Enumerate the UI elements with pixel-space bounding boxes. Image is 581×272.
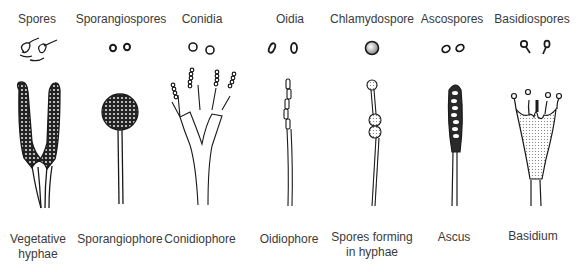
structure-label-sporangiophore: Sporangiophore	[77, 232, 162, 247]
oidia-icon	[268, 42, 297, 53]
structure-label-oidiophore: Oidiophore	[260, 232, 319, 247]
ascus-illustration	[448, 85, 462, 206]
conidiophore-illustration	[171, 68, 236, 205]
spore-icons	[20, 38, 550, 61]
chlamydospores-in-hyphae-illustration	[367, 80, 381, 206]
structure-label-line: in hyphae	[346, 245, 398, 259]
structure-label-vegetative-hyphae: Vegetative hyphae	[10, 232, 66, 262]
sporangiophore-illustration	[102, 94, 138, 204]
oidiophore-illustration	[284, 79, 292, 206]
chlamydospore-icon	[366, 42, 379, 55]
vegetative-hyphae-illustration	[18, 82, 60, 208]
structure-label-spores-forming-in-hyphae: Spores forming in hyphae	[331, 230, 412, 260]
structure-label-line: Spores forming	[331, 230, 412, 244]
motile-spores-icon	[20, 38, 57, 61]
ascospores-icon	[441, 43, 465, 54]
structure-label-basidium: Basidium	[508, 229, 557, 244]
basidium-illustration	[512, 90, 562, 207]
structure-label-line: hyphae	[18, 247, 57, 261]
structure-label-line: Vegetative	[10, 232, 66, 246]
basidiospores-icon	[521, 41, 550, 54]
structure-label-ascus: Ascus	[438, 230, 471, 245]
structure-label-conidiophore: Conidiophore	[164, 232, 235, 247]
conidia-icon	[189, 43, 214, 54]
sporangiospores-icon	[110, 44, 130, 51]
